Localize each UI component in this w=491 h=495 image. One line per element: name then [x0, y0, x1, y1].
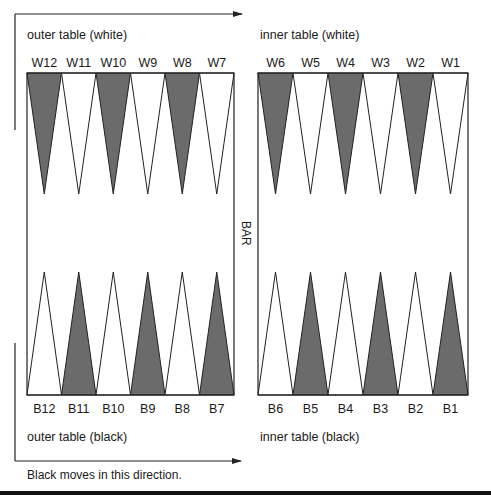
bar-label: BAR — [240, 221, 252, 243]
point-label-w1: W1 — [433, 57, 468, 70]
point-b11 — [62, 272, 97, 395]
point-label-b8: B8 — [165, 403, 200, 416]
point-w3 — [363, 73, 398, 194]
point-w12 — [27, 73, 62, 194]
point-label-b2: B2 — [398, 403, 433, 416]
point-label-w2: W2 — [398, 57, 433, 70]
point-label-w9: W9 — [130, 57, 165, 70]
point-w2 — [398, 73, 433, 194]
point-b12 — [27, 272, 62, 395]
point-label-w10: W10 — [96, 57, 131, 70]
point-label-w11: W11 — [61, 57, 96, 70]
point-w4 — [328, 73, 363, 194]
point-b2 — [398, 272, 433, 395]
point-w11 — [62, 73, 97, 194]
point-b7 — [200, 272, 235, 395]
backgammon-board-diagram — [0, 0, 491, 495]
point-b4 — [328, 272, 363, 395]
point-w8 — [165, 73, 200, 194]
point-label-b6: B6 — [258, 403, 293, 416]
inner-table-white-label: inner table (white) — [260, 29, 359, 42]
point-b3 — [363, 272, 398, 395]
inner-board-half — [258, 73, 468, 395]
point-label-b10: B10 — [96, 403, 131, 416]
point-label-b9: B9 — [130, 403, 165, 416]
point-w10 — [96, 73, 131, 194]
point-b8 — [165, 272, 200, 395]
point-w7 — [200, 73, 235, 194]
point-label-b1: B1 — [433, 403, 468, 416]
point-w6 — [258, 73, 293, 194]
point-label-w5: W5 — [293, 57, 328, 70]
point-b5 — [293, 272, 328, 395]
point-label-b12: B12 — [27, 403, 62, 416]
inner-table-black-label: inner table (black) — [260, 431, 359, 444]
point-b6 — [258, 272, 293, 395]
point-label-w8: W8 — [165, 57, 200, 70]
point-label-b4: B4 — [328, 403, 363, 416]
point-w1 — [433, 73, 468, 194]
point-label-w6: W6 — [258, 57, 293, 70]
point-w5 — [293, 73, 328, 194]
point-b1 — [433, 272, 468, 395]
bottom-edge-band — [0, 491, 491, 495]
outer-table-black-label: outer table (black) — [27, 431, 127, 444]
point-b10 — [96, 272, 131, 395]
point-label-w4: W4 — [328, 57, 363, 70]
point-label-w7: W7 — [199, 57, 234, 70]
point-label-b7: B7 — [199, 403, 234, 416]
outer-table-white-label: outer table (white) — [27, 29, 127, 42]
point-w9 — [131, 73, 166, 194]
point-label-b11: B11 — [61, 403, 96, 416]
direction-note: Black moves in this direction. — [27, 469, 182, 481]
outer-board-half — [27, 73, 234, 395]
point-label-b3: B3 — [363, 403, 398, 416]
point-label-w12: W12 — [27, 57, 62, 70]
point-label-b5: B5 — [293, 403, 328, 416]
point-label-w3: W3 — [363, 57, 398, 70]
point-b9 — [131, 272, 166, 395]
